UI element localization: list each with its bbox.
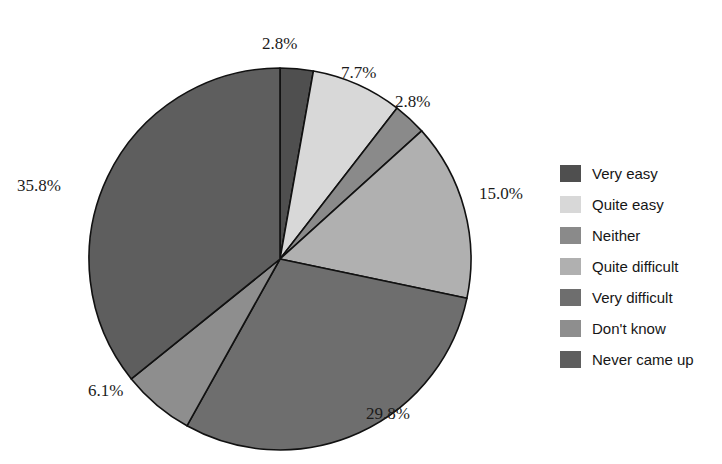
legend-swatch-icon [560, 320, 581, 337]
legend-item-label: Quite easy [592, 196, 664, 213]
legend-swatch-icon [560, 227, 581, 244]
slice-label-never-came-up: 35.8% [17, 176, 61, 196]
legend-item-label: Never came up [592, 351, 694, 368]
legend-swatch-icon [560, 351, 581, 368]
legend-swatch-icon [560, 289, 581, 306]
legend-item-label: Don't know [592, 320, 666, 337]
legend-item[interactable]: Never came up [560, 344, 720, 375]
legend-item-label: Neither [592, 227, 640, 244]
chart-legend: Very easyQuite easyNeitherQuite difficul… [560, 158, 720, 375]
slice-label-neither: 2.8% [395, 92, 430, 112]
pie-plot-area: 2.8% 7.7% 2.8% 15.0% 29.8% 6.1% 35.8% [0, 0, 560, 464]
legend-item-label: Very difficult [592, 289, 673, 306]
legend-item[interactable]: Don't know [560, 313, 720, 344]
legend-swatch-icon [560, 196, 581, 213]
legend-item[interactable]: Quite easy [560, 189, 720, 220]
slice-label-quite-easy: 7.7% [341, 63, 376, 83]
legend-swatch-icon [560, 258, 581, 275]
legend-item-label: Very easy [592, 165, 658, 182]
slice-label-dont-know: 6.1% [88, 381, 123, 401]
slice-label-very-easy: 2.8% [262, 34, 297, 54]
pie-svg [0, 0, 560, 464]
legend-item[interactable]: Very easy [560, 158, 720, 189]
pie-chart-figure: 2.8% 7.7% 2.8% 15.0% 29.8% 6.1% 35.8% Ve… [0, 0, 722, 464]
legend-item-label: Quite difficult [592, 258, 678, 275]
legend-item[interactable]: Neither [560, 220, 720, 251]
pie-slice-group [89, 68, 471, 450]
slice-label-quite-difficult: 15.0% [479, 184, 523, 204]
legend-item[interactable]: Quite difficult [560, 251, 720, 282]
slice-label-very-difficult: 29.8% [366, 404, 410, 424]
legend-item[interactable]: Very difficult [560, 282, 720, 313]
legend-swatch-icon [560, 165, 581, 182]
